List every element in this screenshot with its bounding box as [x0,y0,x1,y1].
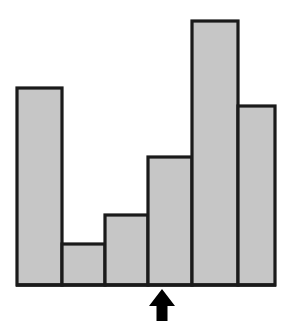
bar-4 [148,157,192,285]
bar-1 [17,88,62,285]
bar-6 [238,106,275,285]
plot-area [0,0,291,335]
histogram-figure [0,0,291,335]
bar-3 [105,215,148,285]
histogram-svg [0,0,291,335]
pointer-arrow-icon [149,289,175,321]
bars-group [17,21,275,285]
bar-2 [62,244,105,285]
bar-5 [192,21,238,285]
